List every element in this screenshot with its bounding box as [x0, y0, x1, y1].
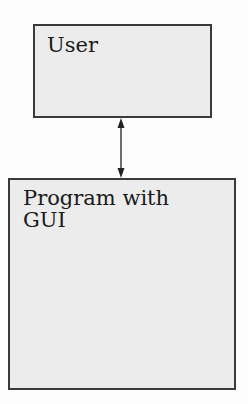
program-label-line1: Program with	[23, 188, 169, 209]
program-label-line2: GUI	[23, 210, 66, 231]
program-with-gui-box: Program with GUI	[8, 178, 236, 390]
